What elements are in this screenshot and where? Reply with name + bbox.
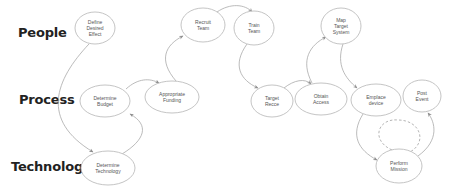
node-label-line: Team xyxy=(248,28,260,34)
node-perform-mission: PerformMission xyxy=(376,149,422,183)
edge-perform-mission-to-post-event xyxy=(418,113,434,156)
edge-map-target-system-to-emplace-device xyxy=(341,44,357,88)
node-appropriate-funding: AppropriateFunding xyxy=(145,81,199,113)
node-label-line: Technology xyxy=(95,168,121,174)
edge-determine-technology-to-determine-budget xyxy=(122,114,142,154)
edge-appropriate-funding-to-recruit-team xyxy=(166,36,183,81)
loop-edge-perform-mission-to-perform-mission xyxy=(379,120,420,152)
node-label-line: Recce xyxy=(265,101,279,107)
node-define-desired-effect: DefineDesiredEffect xyxy=(75,12,115,44)
edge-recruit-team-to-train-team xyxy=(217,6,252,12)
node-post-event: PostEvent xyxy=(403,80,441,112)
node-determine-technology: DetermineTechnology xyxy=(81,151,135,185)
edge-train-team-to-target-recce xyxy=(239,44,258,88)
node-label-line: Event xyxy=(416,96,429,102)
node-map-target-system: MapTargetSystem xyxy=(321,8,361,44)
nodes-layer: DefineDesiredEffectRecruitTeamTrainTeamM… xyxy=(75,8,441,185)
node-label-line: device xyxy=(369,100,384,106)
node-emplace-device: Emplacedevice xyxy=(351,84,401,116)
node-target-recce: TargetRecce xyxy=(251,85,293,117)
node-train-team: TrainTeam xyxy=(234,11,274,45)
node-label-line: Budget xyxy=(97,101,113,107)
node-label-line: Mission xyxy=(391,166,408,172)
node-recruit-team: RecruitTeam xyxy=(181,8,225,42)
edge-emplace-device-to-perform-mission xyxy=(357,114,377,160)
node-label-line: System xyxy=(333,29,350,35)
node-label-line: Access xyxy=(313,99,330,105)
edge-obtain-access-to-map-target-system xyxy=(307,37,326,83)
process-flow-diagram: DefineDesiredEffectRecruitTeamTrainTeamM… xyxy=(0,0,459,192)
node-label-line: Funding xyxy=(163,97,181,103)
node-label-line: Team xyxy=(197,25,209,31)
node-label-line: Effect xyxy=(89,31,102,37)
node-obtain-access: ObtainAccess xyxy=(295,83,347,115)
node-determine-budget: DetermineBudget xyxy=(80,85,130,117)
